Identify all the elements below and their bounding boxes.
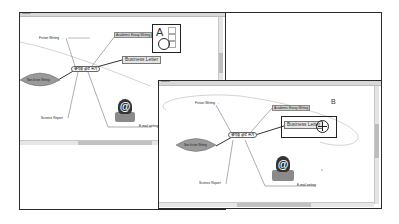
right-node-email-label: E-mail writing [297,183,316,187]
callout-b-label: B [331,98,336,105]
right-node-fiction-label: Fiction Writing [195,101,215,105]
right-connector-academic [250,108,272,133]
right-connector-fiction [216,105,232,134]
right-node-science-label: Science Report [199,181,221,185]
right-node-fiction-arrow-icon: → [216,101,219,105]
right-email-at-icon: @ [270,155,294,183]
right-node-science-report[interactable]: Science Report [198,181,222,185]
right-mindmap-connectors [0,0,399,224]
callout-b-move-handle-icon[interactable] [316,120,329,133]
right-node-fiction-writing[interactable]: Fiction Writing → [194,101,220,105]
right-node-central-topic[interactable]: 생각을 글로 쓰기 [228,132,257,138]
right-node-nonfiction-label: Non-fiction Writing [184,143,207,147]
right-node-academic-label: Academic Essay Writing [274,106,308,110]
right-node-email-writing[interactable]: E-mail writing [296,183,317,187]
right-node-nonfiction[interactable]: Non-fiction Writing [183,143,208,147]
right-connector-nonfiction [216,137,232,146]
right-central-label: 생각을 글로 쓰기 [231,133,254,137]
right-connector-science [226,140,233,184]
right-curve-endpoint [321,169,323,171]
right-node-academic-essay[interactable]: Academic Essay Writing [272,105,310,111]
